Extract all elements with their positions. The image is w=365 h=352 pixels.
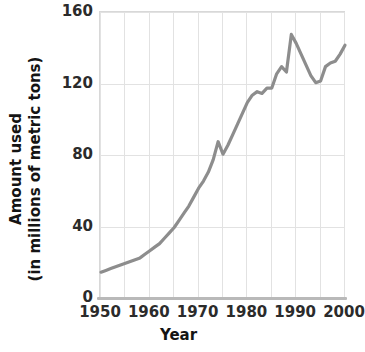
x-tick-label: 1990 [274,303,316,321]
y-axis-title-line1: Amount used [7,39,26,299]
x-axis-tick-labels: 195019601970198019902000 [0,303,357,325]
y-tick-text: 80 [72,145,93,163]
x-tick-label: 1950 [79,303,121,321]
y-tick-text: 160 [62,2,93,20]
y-axis-title: Amount used (in millions of metric tons) [7,39,45,299]
line-series-amount-used [100,12,346,300]
x-axis-title: Year [0,326,357,344]
y-axis-title-line2: (in millions of metric tons) [26,39,45,299]
x-tick-label: 1970 [177,303,219,321]
x-tick-label: 1980 [226,303,268,321]
x-tick-label: 1960 [128,303,170,321]
series-line [101,34,345,272]
y-tick-text: 120 [62,74,93,92]
plot-area [99,11,345,299]
x-tick-label: 2000 [323,303,365,321]
y-tick-text: 40 [72,217,93,235]
x-axis-line [97,297,347,300]
